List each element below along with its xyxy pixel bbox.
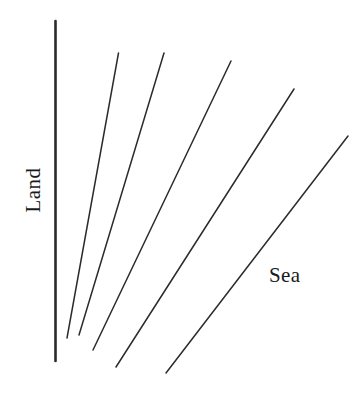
land-label: Land	[0, 157, 68, 223]
figure-canvas: Land Sea	[0, 0, 363, 405]
sea-label: Sea	[269, 265, 301, 286]
